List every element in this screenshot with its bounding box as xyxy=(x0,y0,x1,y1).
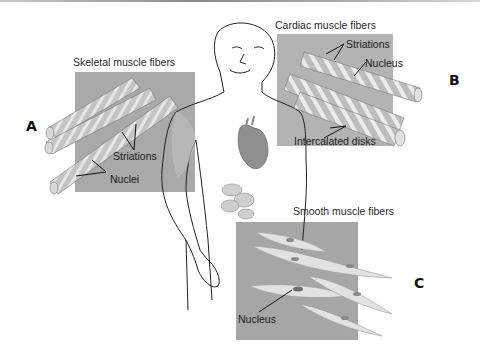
intestine-illustration xyxy=(221,184,254,219)
heart-icon xyxy=(238,116,268,169)
smooth-title: Smooth muscle fibers xyxy=(293,205,394,217)
panel-letter-b: B xyxy=(449,72,460,88)
cardiac-label-intercalated-disks: Intercalated disks xyxy=(294,135,376,147)
skeletal-title: Skeletal muscle fibers xyxy=(73,56,175,68)
arm-muscle xyxy=(172,112,196,178)
panel-letter-a: A xyxy=(26,118,37,134)
skeletal-label-nuclei: Nuclei xyxy=(110,173,139,185)
cardiac-label-nucleus: Nucleus xyxy=(365,57,403,69)
cardiac-title: Cardiac muscle fibers xyxy=(275,19,376,31)
illustration xyxy=(0,0,480,357)
smooth-label-nucleus: Nucleus xyxy=(238,313,276,325)
panel-letter-c: C xyxy=(414,275,424,291)
skeletal-label-striations: Striations xyxy=(113,150,157,162)
cardiac-label-striations: Striations xyxy=(346,38,390,50)
